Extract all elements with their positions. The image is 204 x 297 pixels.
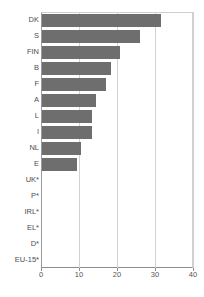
bar-row: I (0, 124, 204, 140)
bar-row: NL (0, 140, 204, 156)
category-label: UK* (0, 172, 39, 188)
category-label: EL* (0, 220, 39, 236)
category-label: D* (0, 236, 39, 252)
bar-track (42, 110, 92, 123)
category-label: L (0, 108, 39, 124)
bar-track (42, 30, 140, 43)
bar-row: EL* (0, 220, 204, 236)
bar (42, 46, 120, 59)
category-label: F (0, 76, 39, 92)
bar-row: L (0, 108, 204, 124)
category-label: DK (0, 12, 39, 28)
bar-row: E (0, 156, 204, 172)
category-label: IRL* (0, 204, 39, 220)
bar-track (42, 94, 96, 107)
bar-row: A (0, 92, 204, 108)
bar-row: B (0, 60, 204, 76)
bar-row: UK* (0, 172, 204, 188)
category-label: EU-15* (0, 252, 39, 268)
bar (42, 142, 81, 155)
bar-track (42, 158, 77, 171)
bar-track (42, 126, 92, 139)
bar-track (42, 142, 81, 155)
bar-track (42, 78, 106, 91)
bar (42, 158, 77, 171)
bar-row: EU-15* (0, 252, 204, 268)
bar-row: IRL* (0, 204, 204, 220)
x-axis-labels: 010203040 (0, 270, 204, 284)
bar-row: DK (0, 12, 204, 28)
category-label: B (0, 60, 39, 76)
bar-row: P* (0, 188, 204, 204)
category-label: NL (0, 140, 39, 156)
bar (42, 14, 161, 27)
x-tick-label: 30 (151, 270, 159, 279)
x-tick-label: 20 (113, 270, 121, 279)
bar-chart: DKSFINBFALINLEUK*P*IRL*EL*D*EU-15* 01020… (0, 0, 204, 297)
bar-track (42, 14, 161, 27)
bar (42, 94, 96, 107)
category-label: S (0, 28, 39, 44)
category-label: E (0, 156, 39, 172)
category-label: P* (0, 188, 39, 204)
category-label: A (0, 92, 39, 108)
bar-rows: DKSFINBFALINLEUK*P*IRL*EL*D*EU-15* (0, 12, 204, 268)
bar-row: S (0, 28, 204, 44)
bar (42, 78, 106, 91)
bar-row: FIN (0, 44, 204, 60)
category-label: I (0, 124, 39, 140)
bar (42, 62, 111, 75)
bar (42, 126, 92, 139)
bar-row: D* (0, 236, 204, 252)
x-tick-label: 0 (39, 270, 43, 279)
bar-track (42, 46, 120, 59)
bar (42, 110, 92, 123)
bar-track (42, 62, 111, 75)
x-tick-label: 40 (189, 270, 197, 279)
x-tick-label: 10 (75, 270, 83, 279)
category-label: FIN (0, 44, 39, 60)
bar-row: F (0, 76, 204, 92)
bar (42, 30, 140, 43)
